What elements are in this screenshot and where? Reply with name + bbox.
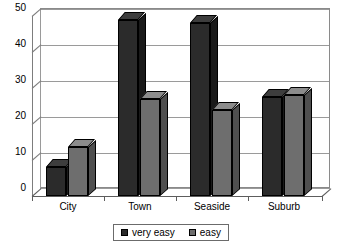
chart-legend: very easy easy: [113, 224, 229, 241]
legend-item-easy: easy: [189, 228, 221, 238]
bar-town-easy: [140, 99, 160, 196]
bar-group-city: [46, 16, 108, 196]
bar-front-face: [46, 167, 66, 196]
y-tick-label-40: 40: [15, 39, 26, 49]
bar-seaside-very-easy: [190, 23, 210, 196]
bar-city-very-easy: [46, 167, 66, 196]
y-axis-labels: 50 40 30 20 10 0: [0, 8, 26, 188]
bar-chart: 50 40 30 20 10 0: [0, 0, 349, 250]
legend-swatch-dark-icon: [121, 229, 128, 236]
bar-side-face: [88, 140, 96, 196]
bar-seaside-easy: [212, 110, 232, 196]
bar-front-face: [118, 20, 138, 196]
bar-group-town: [118, 16, 180, 196]
bar-series-container: [32, 16, 322, 196]
bar-town-very-easy: [118, 20, 138, 196]
bar-side-face: [304, 88, 312, 196]
bar-front-face: [284, 95, 304, 196]
legend-label-very-easy: very easy: [132, 228, 175, 238]
bar-group-seaside: [190, 16, 252, 196]
y-tick-label-30: 30: [15, 75, 26, 85]
legend-label-easy: easy: [200, 228, 221, 238]
y-tick-label-0: 0: [20, 183, 26, 193]
bar-city-easy: [68, 147, 88, 196]
y-tick-label-20: 20: [15, 111, 26, 121]
bar-suburb-very-easy: [262, 97, 282, 196]
bar-front-face: [262, 97, 282, 196]
bar-side-face: [160, 92, 168, 196]
x-label-suburb: Suburb: [252, 201, 316, 213]
bar-group-suburb: [262, 16, 324, 196]
bar-side-face: [232, 103, 240, 196]
plot-area: [32, 8, 330, 196]
bar-front-face: [140, 99, 160, 196]
y-tick-label-10: 10: [15, 147, 26, 157]
legend-item-very-easy: very easy: [121, 228, 175, 238]
x-label-town: Town: [108, 201, 172, 213]
gridline-50: [41, 9, 329, 10]
bar-front-face: [212, 110, 232, 196]
bar-front-face: [190, 23, 210, 196]
x-label-seaside: Seaside: [180, 201, 244, 213]
x-axis-labels: City Town Seaside Suburb: [32, 201, 330, 217]
legend-swatch-gray-icon: [189, 229, 196, 236]
x-label-city: City: [36, 201, 100, 213]
bar-suburb-easy: [284, 95, 304, 196]
bar-front-face: [68, 147, 88, 196]
y-tick-label-50: 50: [15, 3, 26, 13]
